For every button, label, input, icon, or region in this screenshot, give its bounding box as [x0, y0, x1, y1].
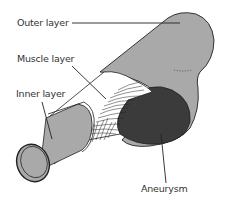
inner-layer-label: Inner layer	[16, 88, 65, 99]
aneurysm-label: Aneurysm	[141, 183, 188, 194]
inner-layer-shape	[11, 102, 94, 186]
artery-diagram: Outer layer Muscle layer Inner layer Ane…	[0, 0, 233, 206]
muscle-layer-label: Muscle layer	[17, 53, 74, 64]
artery-illustration	[0, 0, 233, 206]
outer-layer-label: Outer layer	[17, 17, 69, 28]
